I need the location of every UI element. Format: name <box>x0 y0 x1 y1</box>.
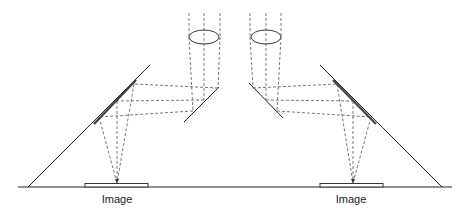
right-assembly <box>249 13 442 187</box>
optical-diagram <box>0 0 467 217</box>
left-image-plate <box>85 184 148 188</box>
right-large-mirror <box>320 65 442 187</box>
right-image-label: Image <box>336 193 367 205</box>
left-mirror-surface <box>94 80 136 124</box>
right-image-plate <box>320 184 383 188</box>
left-small-mirror <box>184 87 219 122</box>
right-focus-arrow <box>351 179 355 183</box>
right-mirror-surface <box>333 80 376 124</box>
right-lens <box>251 30 281 44</box>
left-lens <box>189 30 219 44</box>
left-assembly <box>28 13 220 187</box>
left-focus-arrow <box>115 179 119 183</box>
left-image-label: Image <box>102 193 133 205</box>
